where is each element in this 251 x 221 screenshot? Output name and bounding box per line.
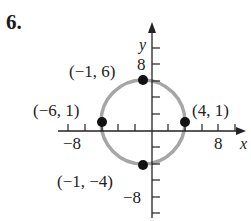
point-label-top: (−1, 6) xyxy=(69,62,115,81)
point-label-left: (−6, 1) xyxy=(33,101,79,120)
x-tick-label-8: 8 xyxy=(214,134,223,153)
x-axis-arrow-icon xyxy=(236,127,246,135)
point-label-right: (4, 1) xyxy=(192,101,229,120)
point-top xyxy=(138,75,148,85)
coordinate-plot: y x −8 8 8 −8 (−1, 6) (−6, 1) (4, 1) (−1… xyxy=(0,0,251,221)
y-tick-label-neg8: −8 xyxy=(123,188,141,207)
x-tick-label-neg8: −8 xyxy=(63,134,81,153)
point-right xyxy=(180,117,190,127)
y-tick-label-8: 8 xyxy=(137,55,146,74)
point-left xyxy=(97,117,107,127)
point-bottom xyxy=(138,160,148,170)
circle-curve xyxy=(101,80,185,164)
x-axis-label: x xyxy=(239,135,247,152)
y-axis-arrow-icon xyxy=(148,22,156,33)
point-label-bottom: (−1, −4) xyxy=(57,172,113,191)
y-axis-label: y xyxy=(137,36,147,54)
